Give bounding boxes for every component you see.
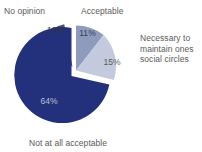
pie-category-label-no-opinion: No opinion xyxy=(4,6,45,17)
pie-category-label-necessary: Necessary to maintain ones social circle… xyxy=(140,33,200,65)
pie-value-label-necessary: 15% xyxy=(103,57,121,67)
pie-value-label-not-at-all-acceptable: 64% xyxy=(40,96,58,106)
pie-category-label-not-at-all-acceptable: Not at all acceptable xyxy=(29,138,107,149)
pie-value-label-acceptable: 11% xyxy=(79,28,96,38)
pie-chart: 10% 11% 15% 64% No opinion Acceptable Ne… xyxy=(0,0,202,152)
pie-category-label-acceptable: Acceptable xyxy=(81,6,124,17)
pie-value-label-no-opinion: 10% xyxy=(47,25,65,35)
pie-chart-canvas: 10% 11% 15% 64% xyxy=(0,0,202,152)
